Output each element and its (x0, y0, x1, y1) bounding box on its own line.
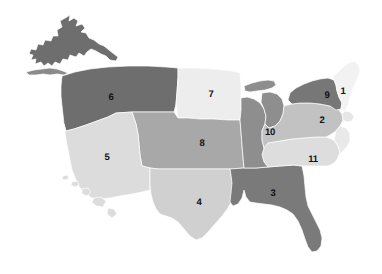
region-shape-new-england-coast (342, 111, 354, 122)
region-label-7: 7 (208, 90, 213, 100)
region-label-3: 3 (270, 189, 275, 199)
region-shape-8 (132, 112, 244, 169)
region-label-8: 8 (199, 139, 204, 149)
region-label-9: 9 (324, 91, 329, 101)
region-label-2: 2 (319, 116, 324, 126)
region-label-4: 4 (196, 198, 201, 208)
region-label-11: 11 (308, 155, 318, 165)
region-label-10: 10 (265, 128, 275, 138)
region-shape-michigan-up (244, 80, 276, 92)
us-choropleth-map: 1 2 3 4 5 6 7 8 9 10 11 (0, 0, 382, 274)
region-shape-alaska-tail (26, 68, 68, 75)
region-label-6: 6 (108, 93, 113, 103)
region-shape-3 (230, 165, 322, 252)
region-label-5: 5 (104, 153, 109, 163)
region-shape-4 (150, 168, 233, 240)
map-svg (0, 0, 382, 274)
region-label-1: 1 (340, 87, 345, 97)
